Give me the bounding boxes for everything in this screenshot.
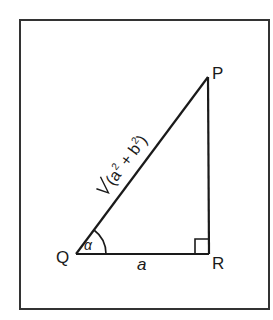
hyp-open: (a xyxy=(102,167,124,189)
angle-label-alpha: α xyxy=(84,237,93,253)
angle-arc-alpha xyxy=(94,230,106,254)
side-RP xyxy=(208,77,209,254)
right-angle-marker xyxy=(195,239,209,254)
vertex-label-P: P xyxy=(212,64,223,83)
base-label-a: a xyxy=(137,255,146,274)
vertex-label-Q: Q xyxy=(56,248,69,267)
side-QP-hypotenuse xyxy=(76,77,208,254)
svg-text:(a2 + b2): (a2 + b2) xyxy=(100,131,150,189)
vertex-label-R: R xyxy=(212,254,224,273)
triangle-diagram: P Q R a α (a2 + b2) xyxy=(0,0,273,320)
